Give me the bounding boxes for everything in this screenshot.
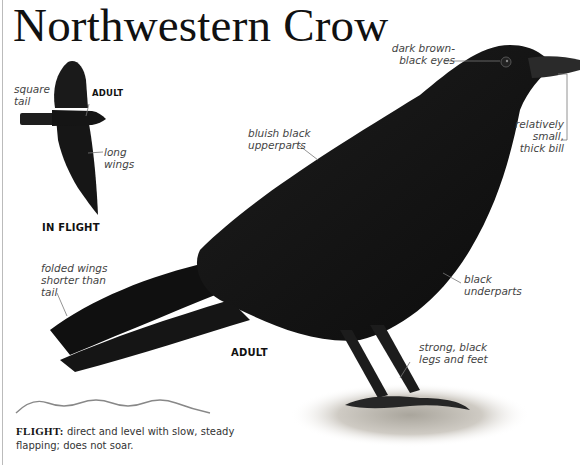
annotation-upperparts: bluish black upperparts	[248, 127, 311, 151]
annotation-line: bluish black	[248, 127, 311, 139]
annotation-eyes: dark brown- black eyes	[375, 42, 455, 66]
main-crow	[50, 45, 580, 410]
annotation-line: underparts	[464, 285, 522, 297]
flight-heading: FLIGHT:	[16, 425, 64, 437]
annotation-line: wings	[104, 158, 134, 170]
annotation-line: square	[14, 83, 50, 95]
inset-caption: IN FLIGHT	[42, 222, 100, 233]
annotation-line: upperparts	[248, 139, 311, 151]
annotation-long-wings: long wings	[104, 146, 134, 170]
inset-age-label: ADULT	[92, 88, 123, 98]
flight-pattern-wave	[16, 400, 210, 413]
annotation-line: folded wings	[41, 262, 107, 274]
annotation-line: legs and feet	[419, 353, 488, 365]
annotation-line: strong, black	[419, 341, 488, 353]
annotation-line: long	[104, 146, 134, 158]
annotation-line: dark brown-	[375, 42, 455, 54]
annotation-line: tail	[41, 286, 107, 298]
main-age-label: ADULT	[231, 347, 268, 358]
annotation-bill: relatively small, thick bill	[500, 118, 564, 154]
annotation-underparts: black underparts	[464, 273, 522, 297]
annotation-legs: strong, black legs and feet	[419, 341, 488, 365]
annotation-line: black	[464, 273, 522, 285]
annotation-line: tail	[14, 95, 50, 107]
annotation-folded-wings: folded wings shorter than tail	[41, 262, 107, 298]
field-guide-page: Northwestern Crow	[0, 0, 580, 465]
flight-description: FLIGHT: direct and level with slow, stea…	[16, 424, 246, 453]
annotation-line: thick bill	[500, 142, 564, 154]
annotation-line: shorter than	[41, 274, 107, 286]
annotation-square-tail: square tail	[14, 83, 50, 107]
annotation-line: relatively	[500, 118, 564, 130]
annotation-line: black eyes	[375, 54, 455, 66]
annotation-line: small,	[500, 130, 564, 142]
